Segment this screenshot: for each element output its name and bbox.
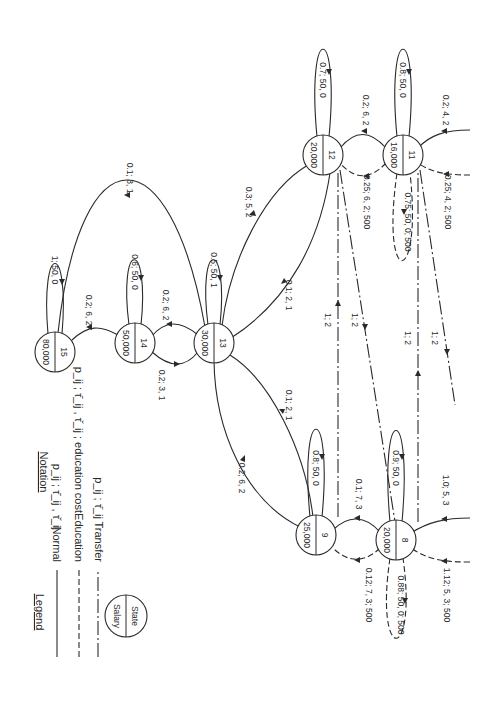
edge-label-8-9: 0.1; 7, 3 — [354, 479, 364, 510]
edge-label-14-15: 0.2; 6, 2 — [84, 295, 94, 326]
edge-label-in-11-education: 0.25; 4, 2; 500 — [443, 175, 453, 230]
legend-title: Legend — [34, 594, 46, 631]
node-salary-label: 80,000 — [41, 339, 51, 365]
node-state-label: 12 — [327, 150, 337, 160]
edge-label-13-12: 0.1; 2, 1 — [284, 280, 294, 311]
edge-8-9-education — [333, 548, 380, 559]
node-state-label: 14 — [139, 338, 149, 348]
edge-label-13-9: 0.1; 2, 1 — [284, 390, 294, 421]
legend-salary-label: Salary — [112, 604, 122, 629]
edge-label-9-12-transfer: 1; 2 — [323, 313, 333, 327]
notation-title: Notation — [38, 452, 50, 493]
self-loops-normal — [47, 49, 412, 522]
legend-transfer-label: Transfer — [93, 521, 105, 562]
node-salary-label: 16,000 — [389, 142, 399, 168]
edge-12-13 — [222, 165, 308, 326]
edge-label-11-12-education: 0.25; 6, 2; 500 — [362, 175, 372, 230]
node-9: 9 25,000 — [296, 515, 336, 555]
legend-normal-notation: p_ij ; τ̄_ij , τ̌_ij — [51, 464, 63, 530]
node-state-label: 9 — [320, 533, 330, 538]
node-8: 8 20,000 — [376, 520, 416, 560]
edge-label-8-self-education: 0.88; 50, 0; 500 — [396, 575, 406, 634]
node-salary-label: 20,000 — [309, 142, 319, 168]
node-state-label: 13 — [218, 338, 228, 348]
legend-normal-label: Normal — [51, 527, 63, 562]
career-state-transition-diagram: 15 80,000 14 50,000 13 30,000 12 20,000 … — [0, 0, 482, 707]
edge-label-13-self: 0.5; 50, 1 — [209, 252, 219, 288]
edge-label-13-14: 0.2; 6, 2 — [161, 290, 171, 321]
edge-label-15-self: 1; 50, 0 — [50, 256, 60, 285]
node-15: 15 80,000 — [35, 332, 75, 372]
node-state-label: 8 — [400, 538, 410, 543]
edge-label-14-13: 0.2; 3, 1 — [157, 370, 167, 401]
edge-label-9-self: 0.8; 50, 0 — [311, 450, 321, 486]
edge-label-13-15: 0.1; 3, 1 — [125, 163, 135, 194]
edge-in-8 — [411, 518, 470, 533]
edge-label-12-self: 0.7; 50, 0 — [318, 62, 328, 98]
edge-label-8-11-transfer: 1; 2 — [403, 331, 413, 345]
node-salary-label: 30,000 — [200, 330, 210, 356]
edge-11-12 — [340, 135, 386, 149]
edge-label-11-out-transfer: 1; 2 — [430, 331, 440, 345]
node-14: 14 50,000 — [115, 323, 155, 363]
edge-label-12-13: 0.3; 5, 2 — [244, 187, 254, 218]
edge-label-in-8: 1.0; 5, 3 — [441, 475, 451, 506]
legend: Legend Notation Normal p_ij ; τ̄_ij , τ̌… — [34, 367, 147, 657]
edge-label-11-self: 0.8; 50, 0 — [398, 62, 408, 98]
legend-state-label: State — [130, 606, 140, 626]
node-state-label: 15 — [59, 347, 69, 357]
node-salary-label: 20,000 — [382, 527, 392, 553]
edge-label-12-8-transfer: 1; 2 — [350, 313, 360, 327]
edge-label-8-9-education: 0.12; 7, 3; 500 — [364, 568, 374, 623]
edge-label-11-12: 0.2; 6, 2 — [361, 95, 371, 126]
edge-label-in-8-education: 1.12; 5, 3; 500 — [442, 568, 452, 623]
edge-9-13 — [214, 361, 300, 527]
node-state-label: 11 — [407, 151, 417, 160]
legend-transfer-notation: p_ij ; τ̄_ij — [93, 477, 105, 519]
node-salary-label: 25,000 — [302, 522, 312, 548]
legend-education-notation: p_ij ; τ̄_ij , τ̌_ij ; education cost — [73, 367, 85, 513]
legend-education-label: Education — [73, 513, 85, 562]
edge-in-8-education — [411, 548, 470, 562]
edge-8-9 — [333, 519, 380, 532]
edge-in-11 — [418, 130, 470, 148]
edge-label-9-13: 0.2; 6, 2 — [237, 463, 247, 494]
edge-label-in-11: 0.2; 4, 2 — [441, 95, 451, 126]
node-13: 13 30,000 — [194, 323, 234, 363]
edge-label-14-self: 0.6; 50, 0 — [130, 254, 140, 290]
edge-14-15 — [72, 328, 118, 340]
node-12: 12 20,000 — [303, 135, 343, 175]
edge-13-14 — [151, 324, 198, 337]
edge-label-11-self-education: 0.75; 50, 0; 500 — [403, 192, 413, 251]
node-salary-label: 50,000 — [121, 330, 131, 356]
edge-label-8-self: 0.9; 50, 0 — [391, 450, 401, 486]
node-11: 11 16,000 — [383, 135, 423, 175]
edge-in-11-education — [418, 163, 470, 175]
legend-node-key: State Salary — [105, 595, 147, 637]
